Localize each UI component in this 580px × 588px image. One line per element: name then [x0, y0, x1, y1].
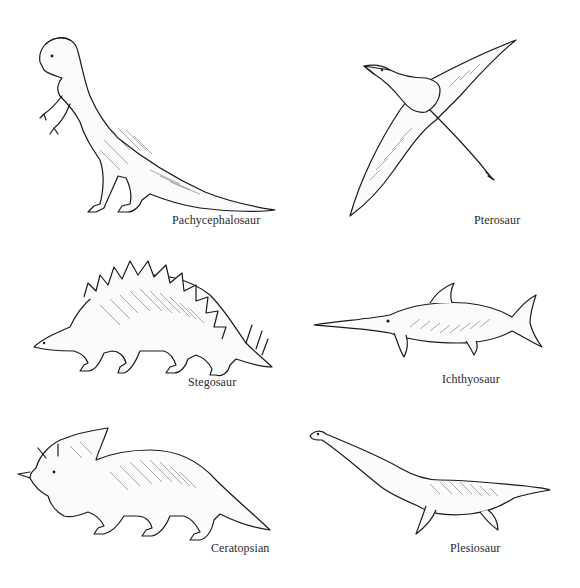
panel-ichthyosaur: Ichthyosaur [290, 235, 580, 400]
panel-ceratopsian: Ceratopsian [0, 400, 290, 588]
label-pachycephalosaur: Pachycephalosaur [172, 213, 260, 228]
ichthyosaur-illustration [290, 235, 580, 400]
label-ceratopsian: Ceratopsian [211, 541, 269, 556]
plesiosaur-illustration [290, 400, 580, 588]
panel-pachycephalosaur: Pachycephalosaur [0, 0, 290, 235]
ceratopsian-illustration [0, 400, 290, 588]
panel-pterosaur: Pterosaur [290, 0, 580, 235]
panel-plesiosaur: Plesiosaur [290, 400, 580, 588]
label-plesiosaur: Plesiosaur [450, 541, 500, 556]
label-pterosaur: Pterosaur [474, 213, 520, 228]
label-ichthyosaur: Ichthyosaur [442, 372, 500, 387]
pachycephalosaur-illustration [0, 0, 290, 235]
stegosaur-illustration [0, 235, 290, 400]
label-stegosaur: Stegosaur [188, 375, 236, 390]
pterosaur-illustration [290, 0, 580, 235]
panel-stegosaur: Stegosaur [0, 235, 290, 400]
